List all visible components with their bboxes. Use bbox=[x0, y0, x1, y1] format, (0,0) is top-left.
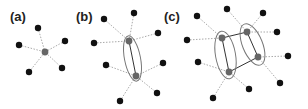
panel-label-b: (b) bbox=[76, 9, 93, 24]
leaf-node bbox=[224, 6, 230, 12]
hypergraph-figure: (a) (b) (c) bbox=[0, 0, 308, 109]
labels-layer: (a) (b) (c) bbox=[10, 9, 180, 24]
dotted-edge bbox=[229, 72, 249, 89]
dotted-edge bbox=[45, 41, 65, 52]
solid-edge bbox=[222, 38, 229, 72]
leaf-node bbox=[35, 25, 41, 31]
solid-edge bbox=[129, 41, 136, 76]
leaf-node bbox=[103, 62, 109, 68]
dotted-edge bbox=[19, 45, 45, 52]
solid-edge bbox=[229, 57, 258, 72]
leaf-node bbox=[184, 37, 190, 43]
leaf-node bbox=[16, 42, 22, 48]
hub-node bbox=[133, 73, 140, 80]
dotted-edge bbox=[38, 28, 45, 52]
leaf-node bbox=[285, 53, 291, 59]
nodes-layer bbox=[16, 6, 291, 104]
hub-node bbox=[42, 49, 49, 56]
leaf-node bbox=[155, 30, 161, 36]
dotted-edge bbox=[258, 56, 288, 57]
dotted-edge bbox=[136, 63, 163, 76]
panel-label-a: (a) bbox=[10, 9, 26, 24]
dotted-edge bbox=[198, 62, 229, 72]
panel-label-c: (c) bbox=[164, 9, 180, 24]
leaf-node bbox=[59, 65, 65, 71]
dotted-edge bbox=[197, 16, 222, 38]
leaf-node bbox=[26, 69, 32, 75]
leaf-node bbox=[210, 95, 216, 101]
leaf-node bbox=[160, 60, 166, 66]
hub-node bbox=[255, 54, 262, 61]
leaf-node bbox=[274, 29, 280, 35]
leaf-node bbox=[260, 10, 266, 16]
leaf-node bbox=[277, 80, 283, 86]
leaf-node bbox=[131, 10, 137, 16]
leaf-node bbox=[195, 59, 201, 65]
solid-edge bbox=[247, 32, 258, 57]
hub-node bbox=[219, 35, 226, 42]
hub-node bbox=[226, 69, 233, 76]
dotted-edge bbox=[187, 38, 222, 40]
dotted-edge bbox=[213, 72, 229, 98]
leaf-node bbox=[62, 38, 68, 44]
leaf-node bbox=[101, 16, 107, 22]
hub-node bbox=[126, 38, 133, 45]
dotted-edge bbox=[258, 57, 280, 83]
dotted-edge bbox=[106, 65, 136, 76]
leaf-node bbox=[154, 90, 160, 96]
hub-node bbox=[244, 29, 251, 36]
dotted-edge bbox=[136, 76, 157, 93]
leaf-node bbox=[91, 40, 97, 46]
dotted-edge bbox=[45, 52, 62, 68]
leaf-node bbox=[194, 13, 200, 19]
leaf-node bbox=[117, 98, 123, 104]
dotted-edge bbox=[29, 52, 45, 72]
leaf-node bbox=[246, 86, 252, 92]
dotted-edge bbox=[227, 9, 247, 32]
